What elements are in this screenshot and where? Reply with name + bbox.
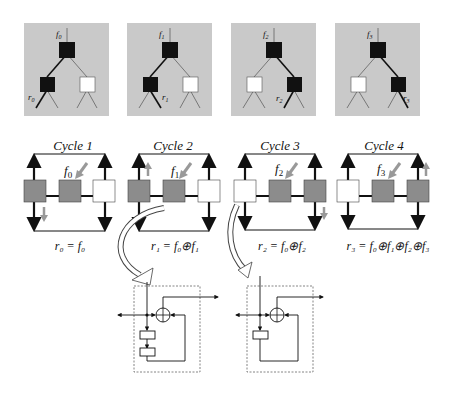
cycle-3-title: Cycle 3 xyxy=(260,138,300,153)
cycle-4-diagram: f3 r₃ = f₀⊕f₁⊕f₂⊕f₃ xyxy=(337,154,430,253)
tree-panel-4: f3 r3 xyxy=(335,23,420,116)
cycle-1-diagram: f0 r₀ = f₀ xyxy=(24,154,115,253)
cycle-2-diagram: f1 r₁ = f₀⊕f₁ xyxy=(128,154,220,253)
tree-left-node xyxy=(40,77,55,92)
detail-cell-two-registers xyxy=(118,282,218,372)
tree-panel-1: f0 r0 xyxy=(24,23,109,116)
svg-text:r₁ = f₀⊕f₁: r₁ = f₀⊕f₁ xyxy=(151,239,199,253)
tree-root-node xyxy=(59,42,75,58)
svg-text:r₀ = f₀: r₀ = f₀ xyxy=(55,239,85,253)
tree-right-node xyxy=(80,77,95,92)
cycle-3-diagram: f2 r₂ = f₀⊕f₂ xyxy=(234,154,328,253)
cycle-1-title: Cycle 1 xyxy=(53,138,92,153)
cycle-2-title: Cycle 2 xyxy=(153,138,193,153)
svg-text:f3: f3 xyxy=(377,161,386,178)
register-1 xyxy=(140,331,155,339)
svg-text:r₂ = f₀⊕f₂: r₂ = f₀⊕f₂ xyxy=(258,239,306,253)
register-2 xyxy=(140,348,155,356)
tree-panel-3: f2 r2 xyxy=(231,23,316,116)
svg-text:r₃ = f₀⊕f₁⊕f₂⊕f₃: r₃ = f₀⊕f₁⊕f₂⊕f₃ xyxy=(347,239,430,253)
tree-panel-2: f1 r1 xyxy=(127,23,212,116)
svg-text:f1: f1 xyxy=(171,163,179,180)
register-1 xyxy=(253,331,268,339)
svg-text:f0: f0 xyxy=(64,163,73,180)
zoom-arrow-cycle-3 xyxy=(230,205,252,278)
cycle-diagram: f0 r0 f1 r1 f2 r2 xyxy=(0,0,453,394)
detail-cell-one-register xyxy=(236,276,323,372)
cycle-4-title: Cycle 4 xyxy=(364,138,404,153)
svg-text:f2: f2 xyxy=(275,161,283,178)
